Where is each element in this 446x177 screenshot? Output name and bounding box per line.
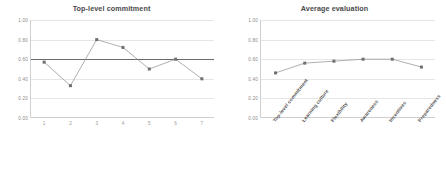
- y-axis-tick-label: 1.00: [248, 18, 258, 23]
- x-axis-tick-label: 1: [43, 121, 46, 126]
- y-axis-tick-label: 0.00: [18, 116, 28, 121]
- data-point-marker: [122, 46, 125, 49]
- x-axis-tick-label: 4: [122, 121, 125, 126]
- data-point-marker: [69, 84, 72, 87]
- plot-area-left: 0.000.200.400.600.801.00 1234567: [30, 20, 214, 118]
- y-axis-tick-label: 0.80: [18, 37, 28, 42]
- y-axis-tick-label: 0.20: [18, 96, 28, 101]
- series-line: [276, 59, 422, 73]
- data-point-marker: [174, 58, 177, 61]
- chart-panel-top-level-commitment: Top-level commitment 0.000.200.400.600.8…: [0, 0, 223, 177]
- y-axis-tick-label: 0.20: [248, 96, 258, 101]
- data-point-marker: [303, 62, 306, 65]
- x-axis-tick-label: 2: [69, 121, 72, 126]
- y-axis-tick-label: 0.00: [248, 116, 258, 121]
- y-axis-tick-label: 0.60: [18, 57, 28, 62]
- y-axis-tick-label: 0.60: [248, 57, 258, 62]
- data-point-marker: [420, 66, 423, 69]
- data-point-marker: [148, 68, 151, 71]
- x-axis-tick-label: 3: [95, 121, 98, 126]
- chart-title-left: Top-level commitment: [0, 4, 223, 13]
- plot-area-right: 0.000.200.400.600.801.00 Top-level commi…: [260, 20, 435, 118]
- x-axis-tick-label: 7: [201, 121, 204, 126]
- data-series-right: [261, 20, 436, 118]
- data-point-marker: [362, 58, 365, 61]
- data-point-marker: [43, 61, 46, 64]
- x-axis-tick-label: 5: [148, 121, 151, 126]
- y-axis-tick-label: 0.40: [248, 76, 258, 81]
- data-point-marker: [95, 38, 98, 41]
- data-point-marker: [332, 60, 335, 63]
- data-point-marker: [200, 77, 203, 80]
- data-point-marker: [274, 71, 277, 74]
- data-series-left: [31, 20, 215, 118]
- y-axis-tick-label: 0.40: [18, 76, 28, 81]
- y-axis-tick-label: 1.00: [18, 18, 28, 23]
- chart-title-right: Average evaluation: [223, 4, 446, 13]
- data-point-marker: [391, 58, 394, 61]
- y-axis-tick-label: 0.80: [248, 37, 258, 42]
- figure-container: Top-level commitment 0.000.200.400.600.8…: [0, 0, 446, 177]
- x-axis-tick-label: 6: [174, 121, 177, 126]
